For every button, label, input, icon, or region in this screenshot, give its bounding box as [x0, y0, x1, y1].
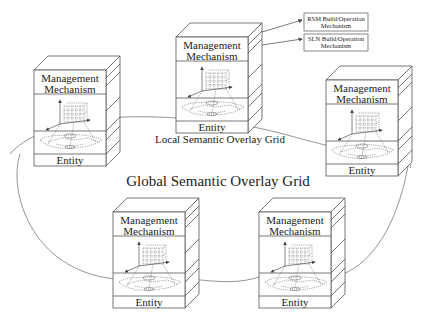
- mechanism-label: Mechanism: [186, 50, 238, 62]
- node-right: Management Mechanism Entity: [326, 66, 412, 176]
- svg-text:Entity: Entity: [349, 164, 376, 176]
- svg-text:Mechanism: Mechanism: [44, 83, 96, 95]
- svg-text:Mechanism: Mechanism: [336, 93, 388, 105]
- svg-text:Entity: Entity: [136, 296, 163, 308]
- entity-label: Entity: [199, 121, 226, 133]
- svg-text:Mechanism: Mechanism: [269, 225, 321, 237]
- global-grid-title: Global Semantic Overlay Grid: [126, 173, 310, 189]
- node-bottom-left: Management Mechanism Entity: [113, 198, 199, 308]
- node-center-top: Management Mechanism Entity: [176, 23, 262, 133]
- node-bottom-right: Management Mechanism Entity: [259, 198, 345, 308]
- semantic-overlay-grid-diagram: Management Mechanism Entity Local Semant…: [0, 0, 436, 322]
- svg-text:Mechanism: Mechanism: [123, 225, 175, 237]
- overlay-link-bottomleft-bottomright: [190, 276, 262, 282]
- svg-text:SLN Build/Operation: SLN Build/Operation: [308, 35, 365, 42]
- local-grid-caption: Local Semantic Overlay Grid: [155, 133, 285, 145]
- callout-rsm: RSM Build/Operation Mechanism: [304, 13, 368, 31]
- overlay-link-left-bottomleft: [17, 154, 115, 279]
- svg-text:Mechanism: Mechanism: [321, 22, 351, 29]
- svg-text:RSM Build/Operation: RSM Build/Operation: [307, 15, 365, 22]
- svg-text:Entity: Entity: [57, 154, 84, 166]
- overlay-link-bottomright-right: [338, 166, 408, 276]
- svg-text:Entity: Entity: [282, 296, 309, 308]
- callout-sln: SLN Build/Operation Mechanism: [304, 34, 368, 51]
- svg-text:Mechanism: Mechanism: [321, 42, 351, 49]
- node-left: Management Mechanism Entity: [34, 56, 120, 166]
